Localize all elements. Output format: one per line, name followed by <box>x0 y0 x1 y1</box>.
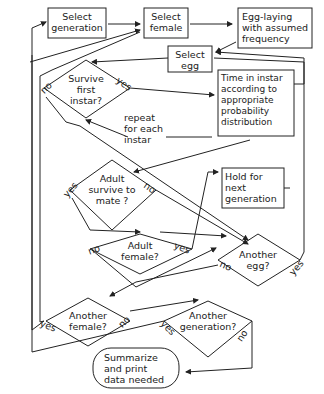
select-generation-label: Select generation <box>48 11 106 33</box>
repeat-note: repeat for each instar <box>124 112 163 145</box>
summarize-label: Summarize and print data needed <box>104 352 164 385</box>
another-female-label: Another female? <box>62 310 114 332</box>
select-female-label: Select female <box>144 11 188 33</box>
select-egg-label: Select egg <box>168 49 212 71</box>
another-egg-label: Another egg? <box>232 249 284 271</box>
time-in-instar-label: Time in instar according to appropriate … <box>221 73 283 128</box>
adult-female-label: Adult female? <box>112 240 168 262</box>
egg-laying-label: Egg-laying with assumed frequency <box>242 11 308 44</box>
survive-first-instar-label: Survive first instar? <box>56 73 116 106</box>
hold-next-gen-label: Hold for next generation <box>225 171 277 204</box>
another-generation-label: Another generation? <box>176 310 240 332</box>
adult-survive-label: Adult survive to mate ? <box>80 173 144 206</box>
